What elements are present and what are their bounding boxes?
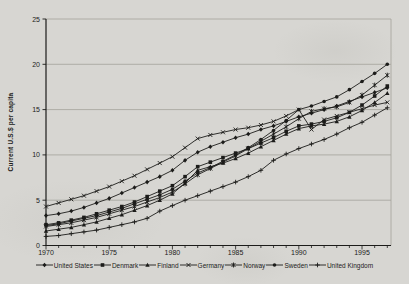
series-germany [44, 100, 389, 208]
y-tick-label: 10 [32, 151, 40, 158]
y-axis-title: Current U.S.$ per capita [7, 92, 15, 171]
y-tick-label: 15 [32, 106, 40, 113]
legend-label: United Kingdom [327, 262, 373, 269]
legend-label: Norway [243, 262, 265, 269]
x-tick-label: 1995 [354, 249, 370, 256]
triangle-marker-icon [139, 261, 156, 269]
legend-label: Germany [198, 262, 225, 269]
plus-marker-icon [309, 261, 326, 269]
x-tick-label: 1975 [101, 249, 117, 256]
legend-label: United States [54, 262, 93, 269]
legend-item-united-states: United States [36, 261, 93, 269]
series-united-states [44, 86, 389, 218]
legend-label: Sweden [284, 262, 308, 269]
legend-item-denmark: Denmark [94, 261, 138, 269]
legend-item-finland: Finland [139, 261, 178, 269]
legend: United StatesDenmarkFinlandGermanyNorway… [0, 257, 409, 273]
legend-item-sweden: Sweden [266, 261, 308, 269]
x-tick-label: 1985 [228, 249, 244, 256]
y-tick-label: 20 [32, 61, 40, 68]
square-marker-icon [94, 261, 111, 269]
y-tick-label: 5 [36, 197, 40, 204]
legend-item-norway: Norway [225, 261, 265, 269]
legend-item-united-kingdom: United Kingdom [309, 261, 373, 269]
x-tick-label: 1990 [291, 249, 307, 256]
plot-area: 0510152025197019751980198519901995 [32, 16, 391, 257]
diamond-marker-icon [36, 261, 53, 269]
x-marker-icon [180, 261, 197, 269]
x-tick-label: 1970 [38, 249, 54, 256]
figure: Current U.S.$ per capita 051015202519701… [0, 0, 409, 284]
legend-label: Finland [157, 262, 178, 269]
asterisk-marker-icon [225, 261, 242, 269]
y-tick-label: 25 [32, 16, 40, 23]
line-chart: Current U.S.$ per capita 051015202519701… [0, 0, 409, 256]
series-finland [44, 91, 390, 233]
circle-marker-icon [266, 261, 283, 269]
series-finland-line [46, 93, 387, 231]
x-tick-label: 1980 [165, 249, 181, 256]
y-tick-label: 0 [36, 242, 40, 249]
legend-item-germany: Germany [180, 261, 225, 269]
legend-label: Denmark [112, 262, 138, 269]
